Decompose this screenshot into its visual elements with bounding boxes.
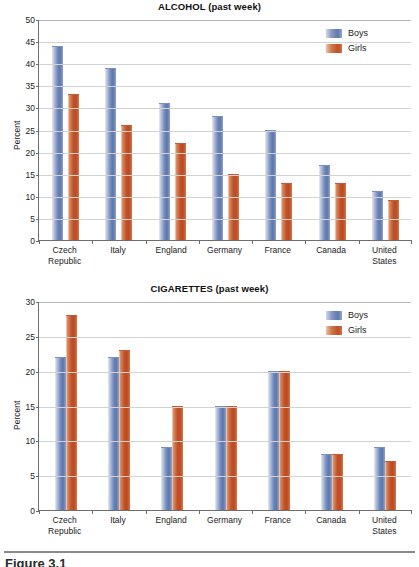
x-axis-tick-mark	[411, 240, 412, 244]
y-axis-tick-label: 10	[26, 436, 35, 446]
x-axis-tick-mark	[252, 240, 253, 244]
bar-boys-england	[161, 447, 172, 510]
figure-container: ALCOHOL (past week) Percent 051015202530…	[0, 0, 419, 567]
y-axis-tick-label: 20	[26, 367, 35, 377]
bar-boys-france	[265, 130, 276, 241]
y-axis-tick-label: 30	[26, 297, 35, 307]
x-axis-label-canada: Canada	[316, 245, 346, 256]
gridline	[39, 197, 411, 198]
bar-boys-germany	[212, 116, 223, 240]
y-axis-label-alcohol: Percent	[12, 121, 22, 150]
y-axis-label-cigarettes: Percent	[12, 401, 22, 430]
x-axis-tick-mark	[146, 510, 147, 514]
bar-boys-canada	[319, 165, 330, 240]
y-axis-tick-label: 5	[30, 471, 35, 481]
legend-item-boys: Boys	[326, 310, 368, 320]
legend-cigarettes: Boys Girls	[326, 310, 368, 335]
y-axis-tick-mark	[36, 108, 39, 109]
caption-divider	[4, 551, 415, 553]
legend-label-boys: Boys	[348, 310, 368, 320]
y-axis-tick-label: 15	[26, 402, 35, 412]
y-axis-tick-mark	[36, 407, 39, 408]
bar-girls-germany	[226, 406, 237, 511]
x-axis-tick-mark	[359, 240, 360, 244]
y-axis-tick-label: 40	[26, 59, 35, 69]
x-axis-tick-mark	[39, 240, 40, 244]
bar-girls-germany	[228, 174, 239, 240]
x-axis-tick-mark	[252, 510, 253, 514]
bar-boys-united-states	[372, 191, 383, 240]
bar-girls-italy	[121, 125, 132, 240]
y-axis-tick-label: 45	[26, 37, 35, 47]
chart-title-cigarettes: CIGARETTES (past week)	[0, 283, 419, 294]
gridline	[39, 153, 411, 154]
x-axis-tick-mark	[411, 510, 412, 514]
gridline	[39, 219, 411, 220]
y-axis-tick-mark	[36, 372, 39, 373]
x-axis-label-italy: Italy	[110, 245, 126, 256]
y-axis-tick-mark	[36, 175, 39, 176]
y-axis-tick-label: 0	[30, 236, 35, 246]
x-axis-label-italy: Italy	[110, 515, 126, 526]
bar-boys-germany	[215, 406, 226, 511]
y-axis-tick-label: 50	[26, 15, 35, 25]
bar-girls-canada	[332, 454, 343, 510]
legend-label-boys: Boys	[348, 28, 368, 38]
gridline	[39, 407, 411, 408]
y-axis-tick-mark	[36, 337, 39, 338]
x-axis-label-czech-republic: CzechRepublic	[48, 245, 81, 266]
y-axis-tick-mark	[36, 302, 39, 303]
plot-area-alcohol: 05101520253035404550	[38, 20, 411, 241]
x-axis-label-germany: Germany	[207, 515, 242, 526]
x-axis-label-canada: Canada	[316, 515, 346, 526]
y-axis-tick-label: 15	[26, 170, 35, 180]
bar-girls-france	[281, 183, 292, 240]
legend-label-girls: Girls	[348, 325, 367, 335]
y-axis-tick-mark	[36, 131, 39, 132]
legend-swatch-girls-icon	[326, 326, 342, 335]
bar-boys-czech-republic	[55, 357, 66, 510]
bar-girls-italy	[119, 350, 130, 510]
y-axis-tick-mark	[36, 441, 39, 442]
legend-swatch-boys-icon	[326, 29, 342, 38]
gridline	[39, 337, 411, 338]
y-axis-tick-mark	[36, 42, 39, 43]
x-axis-tick-mark	[92, 240, 93, 244]
x-axis-tick-mark	[39, 510, 40, 514]
x-axis-label-england: England	[156, 515, 187, 526]
y-axis-tick-mark	[36, 20, 39, 21]
gridline	[39, 175, 411, 176]
y-axis-tick-mark	[36, 476, 39, 477]
x-axis-tick-mark	[199, 510, 200, 514]
chart-title-alcohol: ALCOHOL (past week)	[0, 1, 419, 12]
bar-girls-united-states	[388, 200, 399, 240]
legend-item-boys: Boys	[326, 28, 368, 38]
legend-label-girls: Girls	[348, 43, 367, 53]
y-axis-tick-mark	[36, 153, 39, 154]
gridline	[39, 302, 411, 303]
gridline	[39, 441, 411, 442]
x-axis-label-united-states: UnitedStates	[372, 515, 397, 536]
gridline	[39, 372, 411, 373]
legend-swatch-girls-icon	[326, 44, 342, 53]
x-axis-label-france: France	[265, 245, 291, 256]
x-axis-tick-mark	[359, 510, 360, 514]
x-axis-tick-mark	[305, 240, 306, 244]
bar-girls-england	[175, 143, 186, 240]
gridline	[39, 131, 411, 132]
bar-boys-italy	[105, 68, 116, 240]
x-axis-label-england: England	[156, 245, 187, 256]
x-axis-tick-mark	[92, 510, 93, 514]
legend-alcohol: Boys Girls	[326, 28, 368, 53]
y-axis-tick-label: 0	[30, 506, 35, 516]
bar-boys-united-states	[374, 447, 385, 510]
y-axis-tick-label: 35	[26, 81, 35, 91]
y-axis-tick-label: 20	[26, 148, 35, 158]
bar-boys-italy	[108, 357, 119, 510]
gridline	[39, 20, 411, 21]
legend-swatch-boys-icon	[326, 311, 342, 320]
gridline	[39, 86, 411, 87]
y-axis-tick-mark	[36, 86, 39, 87]
y-axis-tick-mark	[36, 64, 39, 65]
bar-boys-czech-republic	[52, 46, 63, 240]
